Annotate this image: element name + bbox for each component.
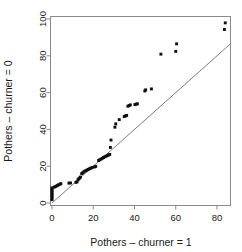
x-tick-label: 40 (129, 212, 140, 223)
data-point (118, 118, 121, 121)
data-point (174, 50, 177, 53)
data-point (125, 114, 128, 117)
x-tick-label: 60 (170, 212, 181, 223)
y-tick-label: 80 (37, 51, 48, 62)
data-point (223, 28, 226, 31)
data-point (129, 103, 132, 106)
data-point (114, 122, 117, 125)
data-point (94, 165, 97, 168)
qq-plot-figure: 020406080 020406080100 Pothers – churner… (0, 0, 242, 252)
qq-plot-canvas: 020406080 020406080100 Pothers – churner… (0, 0, 242, 252)
data-point (79, 176, 82, 179)
data-point (110, 139, 113, 142)
data-point (69, 181, 72, 184)
data-point (159, 53, 162, 56)
data-point (144, 88, 147, 91)
data-point (224, 21, 227, 24)
data-point (108, 153, 111, 156)
y-tick-label: 0 (37, 200, 48, 205)
y-tick-label: 40 (37, 124, 48, 135)
data-point (59, 182, 62, 185)
x-tick-label: 80 (212, 212, 223, 223)
y-axis-label: Pothers – churner = 0 (2, 60, 14, 161)
data-point (136, 102, 139, 105)
x-tick-label: 20 (88, 212, 99, 223)
y-tick-label: 20 (37, 161, 48, 172)
data-point (150, 87, 153, 90)
data-point (175, 42, 178, 45)
data-point (113, 126, 116, 129)
x-tick-label: 0 (49, 212, 54, 223)
data-point (109, 146, 112, 149)
y-tick-label: 60 (37, 87, 48, 98)
y-tick-label: 100 (37, 11, 48, 27)
x-axis-label: Pothers – churner = 1 (90, 236, 191, 248)
